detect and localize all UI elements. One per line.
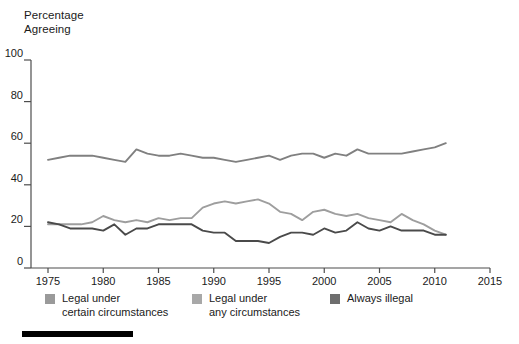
x-tick-label: 2005 <box>359 275 401 287</box>
series-line-1 <box>48 199 446 234</box>
legend-swatch-icon <box>45 294 55 304</box>
chart-legend: Legal under certain circumstancesLegal u… <box>0 292 519 322</box>
x-tick-label: 1975 <box>27 275 69 287</box>
legend-swatch-icon <box>192 294 202 304</box>
y-tick-label: 0 <box>0 255 23 267</box>
legend-label: Legal under certain circumstances <box>62 292 168 319</box>
x-tick-label: 2015 <box>469 275 511 287</box>
y-tick-label: 40 <box>0 172 23 184</box>
bottom-rule <box>22 331 133 337</box>
x-tick-label: 1990 <box>193 275 235 287</box>
y-tick-label: 20 <box>0 213 23 225</box>
y-tick-label: 100 <box>0 47 23 59</box>
legend-item[interactable]: Always illegal <box>330 292 413 306</box>
chart-container: Percentage Agreeing 020406080100 1975198… <box>0 0 519 344</box>
x-tick-label: 1995 <box>248 275 290 287</box>
y-tick-label: 60 <box>0 130 23 142</box>
series-line-0 <box>48 143 446 162</box>
legend-swatch-icon <box>330 294 340 304</box>
x-tick-label: 1985 <box>138 275 180 287</box>
legend-label: Always illegal <box>347 292 413 306</box>
x-tick-label: 1980 <box>82 275 124 287</box>
legend-label: Legal under any circumstances <box>209 292 300 319</box>
x-tick-label: 2010 <box>414 275 456 287</box>
legend-item[interactable]: Legal under any circumstances <box>192 292 300 319</box>
series-line-2 <box>48 222 446 243</box>
legend-item[interactable]: Legal under certain circumstances <box>45 292 168 319</box>
y-tick-label: 80 <box>0 89 23 101</box>
series-layer <box>48 143 446 243</box>
x-tick-label: 2000 <box>303 275 345 287</box>
